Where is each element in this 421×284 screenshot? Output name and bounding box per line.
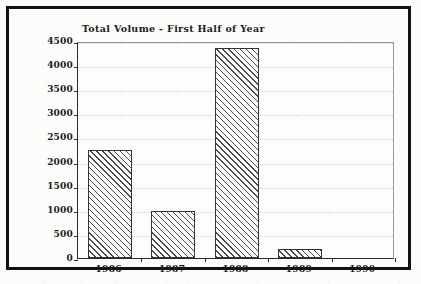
x-axis-tick-mark bbox=[395, 258, 396, 262]
x-axis-tick-mark bbox=[141, 258, 142, 262]
bar bbox=[88, 150, 132, 258]
x-axis-tick-mark bbox=[332, 258, 333, 262]
x-axis-tick-label: 1988 bbox=[222, 264, 248, 274]
y-axis-tick-mark bbox=[74, 236, 78, 237]
y-axis-tick-label: 500 bbox=[54, 229, 73, 239]
y-axis-tick-mark bbox=[74, 43, 78, 44]
chart-figure: Total Volume - First Half of Year 050010… bbox=[0, 0, 421, 284]
y-axis-tick-mark bbox=[74, 212, 78, 213]
x-axis-tick-label: 1989 bbox=[286, 264, 312, 274]
y-axis-tick-label: 2500 bbox=[47, 132, 73, 142]
y-axis-tick-mark bbox=[74, 115, 78, 116]
plot-area bbox=[77, 42, 394, 259]
x-axis-tick-mark bbox=[205, 258, 206, 262]
y-axis-tick-label: 1000 bbox=[47, 205, 73, 215]
x-axis-tick-label: 1990 bbox=[349, 264, 375, 274]
chart-outer-frame: Total Volume - First Half of Year 050010… bbox=[6, 6, 411, 270]
x-axis-tick-label: 1987 bbox=[159, 264, 185, 274]
bar bbox=[215, 48, 259, 258]
y-axis-tick-mark bbox=[74, 91, 78, 92]
y-axis-tick-mark bbox=[74, 164, 78, 165]
y-axis-tick-label: 2000 bbox=[47, 157, 73, 167]
y-axis-tick-label: 3500 bbox=[47, 84, 73, 94]
y-axis-tick-label: 1500 bbox=[47, 181, 73, 191]
gridline bbox=[78, 43, 393, 44]
y-axis-tick-mark bbox=[74, 67, 78, 68]
y-axis-tick-labels: 050010001500200025003000350040004500 bbox=[35, 42, 73, 259]
x-axis-tick-mark bbox=[268, 258, 269, 262]
y-axis-tick-label: 4000 bbox=[47, 60, 73, 70]
y-axis-tick-mark bbox=[74, 139, 78, 140]
bar bbox=[151, 211, 195, 258]
y-axis-tick-label: 0 bbox=[67, 253, 73, 263]
y-axis-tick-label: 4500 bbox=[47, 36, 73, 46]
y-axis-tick-mark bbox=[74, 260, 78, 261]
y-axis-tick-label: 3000 bbox=[47, 108, 73, 118]
x-axis-tick-label: 1986 bbox=[96, 264, 122, 274]
y-axis-tick-mark bbox=[74, 188, 78, 189]
chart-title: Total Volume - First Half of Year bbox=[82, 23, 265, 34]
bar bbox=[278, 249, 322, 258]
